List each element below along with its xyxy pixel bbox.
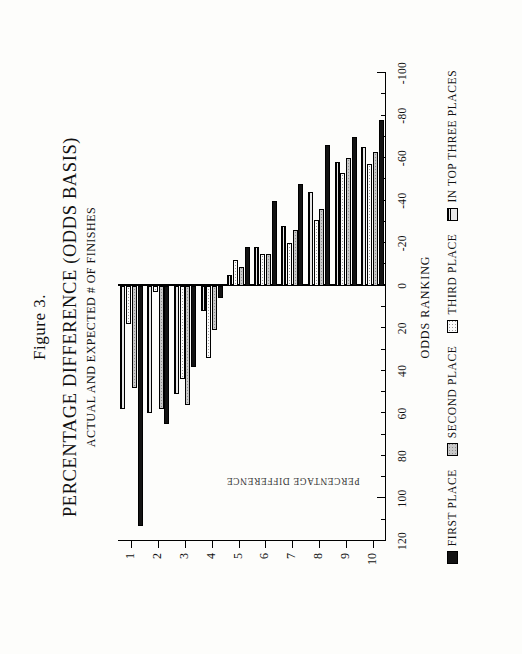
bar-third-place-rank-2 <box>153 286 158 292</box>
bar-second-place-rank-2 <box>159 286 164 409</box>
bar-third-place-rank-9 <box>340 173 345 286</box>
category-label: 4 <box>204 553 219 579</box>
category-label: 8 <box>311 553 326 579</box>
figure-number: Figure 3. <box>30 27 50 627</box>
second-place-swatch-icon <box>447 443 458 456</box>
legend: FIRST PLACE SECOND PLACE THIRD PLACE IN … <box>446 37 458 597</box>
value-tick <box>381 349 386 350</box>
value-tick-label: -40 <box>396 181 408 221</box>
legend-item-second-place: SECOND PLACE <box>446 346 458 457</box>
value-tick <box>381 455 386 456</box>
bar-second-place-rank-6 <box>266 254 271 286</box>
value-tick-label: 100 <box>396 478 408 518</box>
category-tick <box>292 541 293 548</box>
category-tick <box>185 541 186 548</box>
category-tick <box>239 541 240 548</box>
plot-area: PERCENTAGE DIFFERENCE -100-80-60-40-2002… <box>118 73 386 541</box>
value-tick-label: 40 <box>396 351 408 391</box>
bar-first-place-rank-5 <box>245 247 250 285</box>
bar-second-place-rank-1 <box>132 286 137 388</box>
value-tick <box>377 72 386 73</box>
value-tick <box>381 391 386 392</box>
value-tick-label: 60 <box>396 393 408 433</box>
bar-in-top-three-rank-8 <box>308 192 313 286</box>
bar-in-top-three-rank-10 <box>361 147 366 285</box>
legend-item-in-top-three: IN TOP THREE PLACES <box>446 70 458 221</box>
value-tick-label: 120 <box>396 521 408 561</box>
category-tick <box>319 541 320 548</box>
value-tick <box>377 497 386 498</box>
third-place-swatch-icon <box>447 320 458 333</box>
bar-in-top-three-rank-1 <box>120 286 125 409</box>
value-tick <box>381 476 386 477</box>
legend-label: FIRST PLACE <box>446 469 458 546</box>
value-axis-line <box>385 73 386 541</box>
bar-third-place-rank-1 <box>126 286 131 324</box>
bar-second-place-rank-7 <box>293 230 298 285</box>
bar-second-place-rank-9 <box>346 158 351 286</box>
value-tick-label: -80 <box>396 96 408 136</box>
value-tick <box>381 412 386 413</box>
bar-first-place-rank-3 <box>191 286 196 367</box>
rotated-figure-canvas: Figure 3. PERCENTAGE DIFFERENCE (ODDS BA… <box>26 27 496 627</box>
first-place-swatch-icon <box>447 551 458 564</box>
value-tick-label: 80 <box>396 436 408 476</box>
value-tick-label: -100 <box>396 53 408 93</box>
bar-first-place-rank-7 <box>298 184 303 286</box>
category-label: 5 <box>231 553 246 579</box>
figure-subtitle: ACTUAL AND EXPECTED # OF FINISHES <box>84 27 99 627</box>
bar-third-place-rank-10 <box>367 164 372 285</box>
value-tick-label: 20 <box>396 308 408 348</box>
bar-first-place-rank-8 <box>325 145 330 285</box>
bar-in-top-three-rank-2 <box>147 286 152 414</box>
bar-second-place-rank-4 <box>212 286 217 331</box>
category-axis-title: ODDS RANKING <box>418 73 433 541</box>
bar-first-place-rank-6 <box>272 201 277 286</box>
bar-in-top-three-rank-3 <box>174 286 179 394</box>
legend-item-third-place: THIRD PLACE <box>446 234 458 333</box>
bar-in-top-three-rank-4 <box>201 286 206 312</box>
category-label: 2 <box>150 553 165 579</box>
figure-title: PERCENTAGE DIFFERENCE (ODDS BASIS) <box>60 27 81 627</box>
value-tick <box>381 434 386 435</box>
figure-page: Figure 3. PERCENTAGE DIFFERENCE (ODDS BA… <box>0 0 522 654</box>
category-label: 6 <box>257 553 272 579</box>
bar-first-place-rank-1 <box>138 286 143 526</box>
in-top-three-swatch-icon <box>447 208 458 221</box>
bar-second-place-rank-8 <box>319 209 324 286</box>
bar-third-place-rank-8 <box>314 220 319 286</box>
legend-label: SECOND PLACE <box>446 346 458 439</box>
bar-third-place-rank-5 <box>233 260 238 286</box>
bar-in-top-three-rank-6 <box>254 247 259 285</box>
bar-first-place-rank-4 <box>218 286 223 299</box>
bar-third-place-rank-3 <box>180 286 185 380</box>
bar-third-place-rank-7 <box>287 243 292 286</box>
value-tick <box>381 519 386 520</box>
value-tick-label: -20 <box>396 223 408 263</box>
bar-first-place-rank-10 <box>379 120 384 286</box>
value-tick <box>381 327 386 328</box>
category-tick <box>373 541 374 548</box>
bar-first-place-rank-9 <box>352 137 357 286</box>
category-tick <box>131 541 132 548</box>
bar-second-place-rank-3 <box>185 286 190 405</box>
legend-label: IN TOP THREE PLACES <box>446 70 458 203</box>
value-tick <box>381 306 386 307</box>
bar-in-top-three-rank-5 <box>227 275 232 286</box>
category-label: 9 <box>338 553 353 579</box>
category-label: 10 <box>365 553 380 579</box>
bar-second-place-rank-5 <box>239 267 244 286</box>
category-label: 3 <box>177 553 192 579</box>
category-tick <box>346 541 347 548</box>
value-tick <box>381 370 386 371</box>
value-tick <box>381 115 386 116</box>
bar-in-top-three-rank-7 <box>281 226 286 286</box>
value-axis-title: PERCENTAGE DIFFERENCE <box>163 476 423 486</box>
legend-item-first-place: FIRST PLACE <box>446 469 458 564</box>
bar-in-top-three-rank-9 <box>335 162 340 285</box>
value-tick-label: -60 <box>396 138 408 178</box>
bar-third-place-rank-4 <box>206 286 211 358</box>
value-tick <box>381 93 386 94</box>
bar-second-place-rank-10 <box>373 152 378 286</box>
legend-label: THIRD PLACE <box>446 234 458 315</box>
